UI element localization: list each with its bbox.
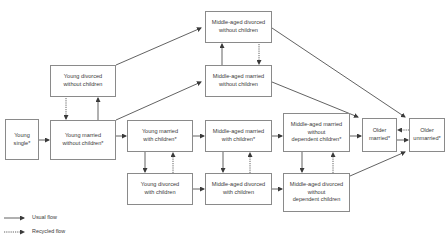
edge-layer [39,28,409,189]
node-label: Older married* [369,127,390,142]
node-young-divorced-no-children: Young divorced without children [50,65,116,97]
node-label: Older unmarried* [413,127,440,142]
node-middle-married-no-children: Middle-aged married without children [205,65,272,97]
node-older-married: Older married* [362,118,397,152]
node-young-single: Young single* [5,119,39,160]
node-label: Young divorced with children [141,181,179,196]
node-middle-married-with-children: Middle-aged married with children* [205,120,272,152]
node-older-unmarried: Older unmarried* [409,118,445,152]
node-label: Middle-aged married without dependent ch… [291,121,342,144]
node-label: Middle-aged divorced with children [212,181,265,196]
node-label: Young single* [14,132,31,147]
usual-flow-arrow [272,82,358,117]
legend-usual-flow-label: Usual flow [32,214,57,220]
usual-flow-arrow [272,28,405,117]
node-young-married-no-children: Young married without children* [50,120,116,160]
node-label: Middle-aged divorced without dependent c… [290,181,343,204]
legend-recycled-flow-label: Recycled flow [32,228,65,234]
usual-flow-arrow [116,28,201,65]
node-middle-divorced-no-children: Middle-aged divorced without children [205,11,272,43]
node-label: Middle-aged married without children [213,73,264,88]
usual-flow-arrow [350,152,405,176]
node-label: Young married without children* [62,132,103,147]
node-label: Young married with children* [142,128,178,143]
node-middle-married-no-dependent: Middle-aged married without dependent ch… [283,113,350,152]
node-label: Young divorced without children [64,73,103,88]
node-young-divorced-with-children: Young divorced with children [127,173,193,205]
node-middle-divorced-no-dependent: Middle-aged divorced without dependent c… [283,173,350,212]
node-label: Middle-aged married with children* [213,128,264,143]
node-label: Middle-aged divorced without children [212,19,265,34]
node-middle-divorced-with-children: Middle-aged divorced with children [205,173,272,205]
legend-lines [4,218,24,232]
usual-flow-arrow [116,82,201,120]
node-young-married-with-children: Young married with children* [127,120,193,152]
